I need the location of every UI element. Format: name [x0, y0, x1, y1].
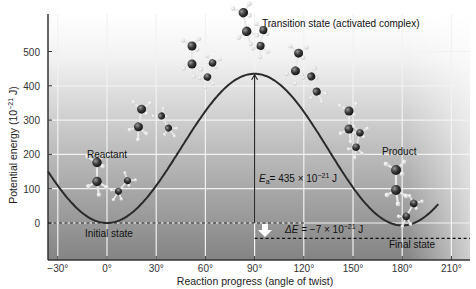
x-tick-label: 210° — [441, 263, 462, 274]
x-tick-label: 150° — [343, 263, 364, 274]
energy-diagram: −30°0°30°60°90°120°150°180°210° 01002003… — [0, 0, 476, 289]
x-tick-label: 120° — [293, 263, 314, 274]
x-tick-label: 0° — [102, 263, 112, 274]
y-tick-label: 100 — [23, 184, 40, 195]
transition-state-label: Transition state (activated complex) — [262, 18, 419, 29]
y-tick-label: 300 — [23, 115, 40, 126]
x-tick-label: 30° — [149, 263, 164, 274]
x-tick-label: −30° — [47, 263, 68, 274]
y-axis-label: Potential energy (10−21 J) — [7, 86, 19, 204]
x-tick-label: 180° — [392, 263, 413, 274]
initial-state-label: Initial state — [85, 228, 133, 239]
y-tick-label: 200 — [23, 149, 40, 160]
product-label: Product — [382, 146, 417, 157]
y-tick-label: 0 — [34, 218, 40, 229]
x-axis-label: Reaction progress (angle of twist) — [177, 275, 333, 287]
y-tick-label: 400 — [23, 81, 40, 92]
final-state-label: Final state — [389, 239, 436, 250]
x-tick-label: 90° — [247, 263, 262, 274]
x-tick-label: 60° — [198, 263, 213, 274]
reactant-label: Reactant — [87, 149, 127, 160]
y-tick-label: 500 — [23, 47, 40, 58]
